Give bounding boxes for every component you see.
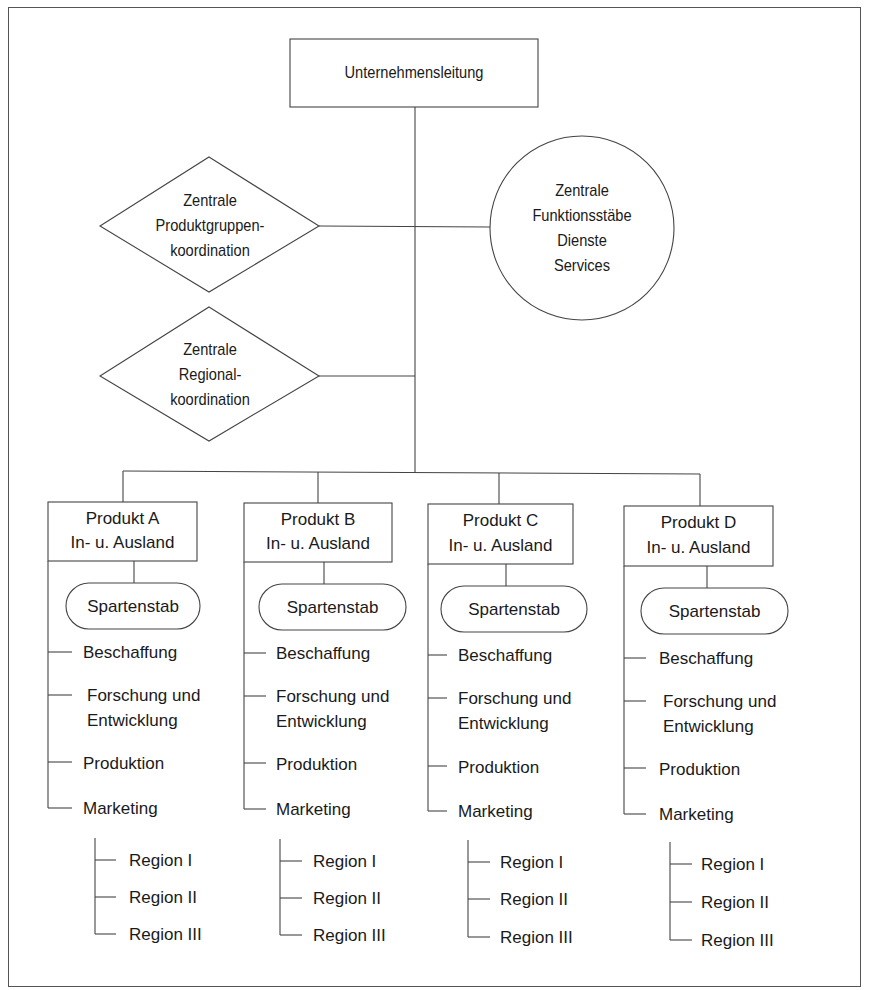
- region-2: Region II: [313, 887, 381, 911]
- function-entwicklung: Entwicklung: [87, 709, 178, 733]
- region-2: Region II: [129, 886, 197, 910]
- function-beschaffung: Beschaffung: [83, 641, 177, 665]
- function-forschung: Forschung und: [458, 687, 571, 711]
- function-marketing: Marketing: [659, 803, 734, 827]
- region-1: Region I: [500, 851, 563, 875]
- node-line: koordination: [124, 387, 296, 412]
- node-line: Funktionsstäbe: [503, 203, 661, 228]
- region-3: Region III: [701, 929, 774, 953]
- spartenstab: Spartenstab: [441, 597, 587, 622]
- division-title: Produkt A: [48, 506, 197, 531]
- division-title: Produkt C: [428, 508, 573, 533]
- spartenstab: Spartenstab: [66, 594, 200, 619]
- connector-lines: [0, 0, 871, 990]
- function-entwicklung: Entwicklung: [276, 710, 367, 734]
- division-subtitle: In- u. Ausland: [244, 531, 392, 556]
- function-forschung: Forschung und: [276, 685, 389, 709]
- region-2: Region II: [701, 891, 769, 915]
- node-unternehmensleitung: Unternehmensleitung: [307, 60, 520, 85]
- function-produktion: Produktion: [458, 756, 539, 780]
- function-entwicklung: Entwicklung: [458, 712, 549, 736]
- region-1: Region I: [313, 850, 376, 874]
- division-title: Produkt B: [244, 507, 392, 532]
- node-line: koordination: [124, 238, 296, 263]
- function-produktion: Produktion: [276, 753, 357, 777]
- region-2: Region II: [500, 888, 568, 912]
- spartenstab: Spartenstab: [259, 595, 406, 620]
- region-3: Region III: [500, 926, 573, 950]
- function-marketing: Marketing: [276, 798, 351, 822]
- node-line: Services: [503, 253, 661, 278]
- node-line: Dienste: [503, 228, 661, 253]
- region-1: Region I: [701, 853, 764, 877]
- region-3: Region III: [313, 924, 386, 948]
- function-entwicklung: Entwicklung: [663, 715, 754, 739]
- function-marketing: Marketing: [83, 797, 158, 821]
- spartenstab: Spartenstab: [641, 599, 788, 624]
- node-line: Regional-: [124, 362, 296, 387]
- function-beschaffung: Beschaffung: [276, 642, 370, 666]
- division-title: Produkt D: [624, 510, 773, 535]
- function-forschung: Forschung und: [663, 690, 776, 714]
- division-subtitle: In- u. Ausland: [428, 533, 573, 558]
- function-beschaffung: Beschaffung: [458, 644, 552, 668]
- region-1: Region I: [129, 849, 192, 873]
- node-line: Produktgruppen-: [124, 213, 296, 238]
- division-subtitle: In- u. Ausland: [48, 530, 197, 555]
- function-beschaffung: Beschaffung: [659, 647, 753, 671]
- node-line: Zentrale: [503, 178, 661, 203]
- function-marketing: Marketing: [458, 800, 533, 824]
- node-line: Zentrale: [124, 188, 296, 213]
- function-produktion: Produktion: [659, 758, 740, 782]
- node-line: Zentrale: [124, 337, 296, 362]
- function-produktion: Produktion: [83, 752, 164, 776]
- function-forschung: Forschung und: [87, 684, 200, 708]
- region-3: Region III: [129, 923, 202, 947]
- division-subtitle: In- u. Ausland: [624, 535, 773, 560]
